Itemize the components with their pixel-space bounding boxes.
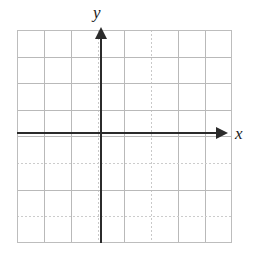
grid-line-horizontal — [17, 163, 232, 164]
grid-line-horizontal — [17, 30, 232, 31]
coordinate-grid-figure: x y — [0, 0, 257, 257]
grid-line-horizontal — [17, 190, 232, 191]
grid-line-horizontal — [17, 136, 232, 137]
grid-line-horizontal — [17, 216, 232, 217]
x-axis — [17, 132, 222, 134]
y-axis — [100, 38, 102, 243]
grid-line-horizontal — [17, 242, 232, 243]
grid-line-horizontal — [17, 57, 232, 58]
grid-lines — [17, 30, 232, 243]
grid-line-horizontal — [17, 83, 232, 84]
x-axis-label: x — [235, 125, 243, 142]
y-axis-label: y — [93, 4, 101, 21]
grid-plate — [17, 30, 232, 243]
y-axis-arrow-icon — [95, 27, 107, 39]
x-axis-arrow-icon — [216, 127, 228, 139]
grid-line-horizontal — [17, 110, 232, 111]
